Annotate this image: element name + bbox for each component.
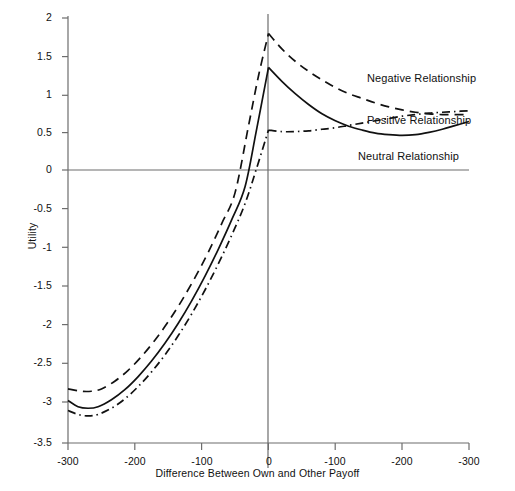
y-tick-label: 1.5 — [22, 50, 52, 62]
series-label-neutral-relationship: Neutral Relationship — [358, 150, 459, 162]
chart-figure: 2 1.5 1 0.5 0 -0.5 -1 -1.5 -2 -2.5 -3 -3… — [0, 0, 515, 491]
x-tick-label: -300 — [445, 455, 493, 467]
x-tick-label: -200 — [111, 455, 159, 467]
series-label-positive-relationship: Positive Relationship — [367, 114, 471, 126]
y-tick-label: 0.5 — [22, 126, 52, 138]
x-axis-ticks — [68, 443, 469, 450]
x-tick-label: -100 — [178, 455, 226, 467]
x-axis-title: Difference Between Own and Other Payoff — [0, 467, 515, 479]
series-label-negative-relationship: Negative Relationship — [367, 72, 476, 84]
y-tick-label: -3.5 — [18, 436, 52, 448]
x-tick-label: -200 — [378, 455, 426, 467]
x-tick-label: 0 — [245, 455, 293, 467]
x-tick-label: -100 — [311, 455, 359, 467]
y-tick-label: 1 — [22, 88, 52, 100]
y-tick-label: -3 — [18, 395, 52, 407]
y-tick-label: 2 — [22, 11, 52, 23]
y-axis-ticks — [62, 18, 68, 443]
y-axis-title: Utility — [26, 196, 38, 276]
y-tick-label: -2 — [18, 318, 52, 330]
y-tick-label: -2.5 — [18, 356, 52, 368]
y-tick-label: 0 — [22, 163, 52, 175]
y-tick-label: -1.5 — [18, 279, 52, 291]
x-tick-label: -300 — [44, 455, 92, 467]
